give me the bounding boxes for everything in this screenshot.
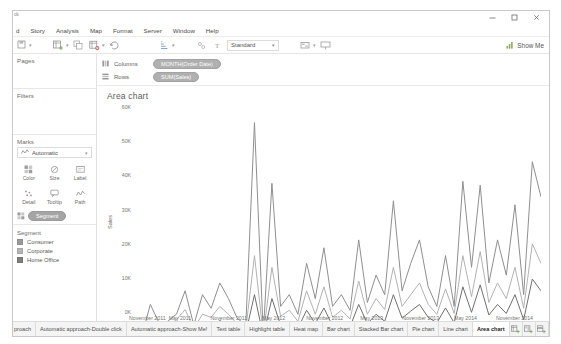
show-mark-labels-icon[interactable]: T (211, 39, 224, 52)
svg-text:T: T (215, 42, 220, 50)
save-caret-icon[interactable]: ▾ (29, 42, 32, 48)
y-tick-label: 30K (122, 207, 131, 213)
legend-item-home-office[interactable]: Home Office (17, 257, 92, 263)
close-icon[interactable] (525, 11, 547, 24)
marks-buttons-grid: Color Size Label (17, 162, 92, 207)
show-me-icon (506, 41, 514, 50)
columns-shelf-label: Columns (114, 61, 148, 67)
worksheet-tab[interactable]: Text table (212, 322, 245, 336)
menu-item-d[interactable]: d (15, 26, 20, 35)
size-icon (50, 165, 59, 174)
legend-label-consumer: Consumer (27, 239, 54, 245)
worksheet-title: Area chart (97, 86, 549, 103)
worksheet-tab[interactable]: Stacked Bar chart (355, 322, 408, 336)
worksheet-tab[interactable]: Automatic approach-Double click (36, 322, 127, 336)
worksheet-tab[interactable]: Area chart (473, 322, 510, 336)
marks-segment-pill[interactable]: Segment (28, 211, 66, 221)
left-panel: Pages Filters Marks Automatic ▾ (13, 54, 97, 337)
clear-sheet-icon[interactable] (88, 39, 101, 52)
highlight-caret-icon[interactable]: ▾ (313, 42, 316, 48)
chart-lines-svg (133, 107, 541, 337)
y-tick-label: 40K (122, 172, 131, 178)
worksheet-tab[interactable]: Highlight table (245, 322, 289, 336)
rows-shelf-label: Rows (114, 74, 148, 80)
duplicate-sheet-icon[interactable] (72, 39, 85, 52)
menu-bar: d Story Analysis Map Format Server Windo… (13, 24, 549, 37)
menu-item-help[interactable]: Help (205, 26, 220, 35)
new-worksheet-tab-icon[interactable] (510, 322, 523, 336)
pages-card[interactable]: Pages (13, 54, 96, 89)
chart-series-line (133, 123, 541, 337)
marks-size-button[interactable]: Size (43, 162, 67, 183)
menu-item-server[interactable]: Server (143, 26, 163, 35)
highlight-icon[interactable] (299, 39, 312, 52)
legend-swatch-home-office (17, 257, 23, 263)
worksheet-tab[interactable]: proach (13, 322, 36, 336)
columns-shelf[interactable]: Columns MONTH(Order Date) (101, 57, 545, 70)
fit-select[interactable]: Standard ▾ (227, 40, 279, 51)
menu-item-story[interactable]: Story (29, 26, 45, 35)
marks-detail-button[interactable]: Detail (17, 186, 41, 207)
worksheet-tab[interactable]: Automatic approach-Show Me! (127, 322, 213, 336)
line-mark-icon (21, 149, 29, 156)
refresh-data-icon[interactable] (108, 39, 121, 52)
legend-label-home-office: Home Office (27, 257, 59, 263)
marks-path-button[interactable]: Path (68, 186, 92, 207)
show-me-button[interactable]: Show Me (506, 41, 544, 50)
worksheet-tab[interactable]: Bar chart (323, 322, 355, 336)
marks-label-button[interactable]: Label (68, 162, 92, 183)
title-bar: ck (13, 11, 549, 24)
rows-icon (101, 73, 109, 80)
legend-item-consumer[interactable]: Consumer (17, 239, 92, 245)
color-icon (17, 212, 25, 221)
new-dashboard-tab-icon[interactable] (523, 322, 536, 336)
worksheet-tab[interactable]: Line chart (439, 322, 473, 336)
clear-sheet-caret-icon[interactable]: ▾ (102, 42, 105, 48)
new-worksheet-caret-icon[interactable]: ▾ (66, 42, 69, 48)
save-icon[interactable] (15, 39, 28, 52)
minimize-icon[interactable] (481, 11, 503, 24)
chart-plot[interactable]: Sales 0K10K20K30K40K50K60K November 2011… (101, 105, 543, 337)
presentation-mode-icon[interactable] (319, 39, 332, 52)
new-story-tab-icon[interactable] (536, 322, 549, 336)
y-tick-label: 50K (122, 138, 131, 144)
chevron-down-icon: ▾ (272, 42, 275, 48)
menu-item-format[interactable]: Format (112, 26, 134, 35)
mark-type-select[interactable]: Automatic ▾ (17, 147, 92, 158)
worksheet-area: Columns MONTH(Order Date) Rows SUM(Sales… (97, 54, 549, 337)
marks-detail-label: Detail (22, 199, 35, 205)
maximize-icon[interactable] (503, 11, 525, 24)
marks-encoded-field-row: Segment (17, 211, 92, 221)
marks-tooltip-button[interactable]: Tooltip (43, 186, 67, 207)
menu-item-map[interactable]: Map (89, 26, 103, 35)
columns-pill-order-date[interactable]: MONTH(Order Date) (153, 59, 221, 69)
menu-item-window[interactable]: Window (172, 26, 196, 35)
y-axis-ticks: 0K10K20K30K40K50K60K (109, 105, 131, 337)
rows-shelf[interactable]: Rows SUM(Sales) (101, 70, 545, 83)
window-title: ck (14, 11, 19, 17)
marks-size-label: Size (49, 175, 59, 181)
marks-color-button[interactable]: Color (17, 162, 41, 183)
marks-color-label: Color (23, 175, 35, 181)
legend-item-corporate[interactable]: Corporate (17, 248, 92, 254)
legend-swatch-consumer (17, 239, 23, 245)
filters-card-title: Filters (17, 92, 92, 99)
tableau-desktop-screenshot: ck d Story Analysis Map Format Server Wi… (0, 0, 561, 344)
label-icon (76, 165, 85, 174)
legend-swatch-corporate (17, 248, 23, 254)
worksheet-tab[interactable]: Heat map (290, 322, 323, 336)
legend-label-corporate: Corporate (27, 248, 53, 254)
y-tick-label: 10K (122, 275, 131, 281)
worksheet-tab[interactable]: Pie chart (408, 322, 439, 336)
group-members-icon[interactable] (195, 39, 208, 52)
mark-type-value: Automatic (32, 150, 58, 156)
shelves: Columns MONTH(Order Date) Rows SUM(Sales… (97, 54, 549, 86)
new-worksheet-icon[interactable] (52, 39, 65, 52)
menu-item-analysis[interactable]: Analysis (55, 26, 80, 35)
marks-card-title: Marks (17, 138, 92, 145)
rows-pill-sum-sales[interactable]: SUM(Sales) (153, 72, 199, 82)
legend-title: Segment (17, 230, 92, 236)
sort-caret-icon[interactable]: ▾ (172, 42, 175, 48)
sort-ascending-icon[interactable] (158, 39, 171, 52)
filters-card[interactable]: Filters (13, 89, 96, 135)
